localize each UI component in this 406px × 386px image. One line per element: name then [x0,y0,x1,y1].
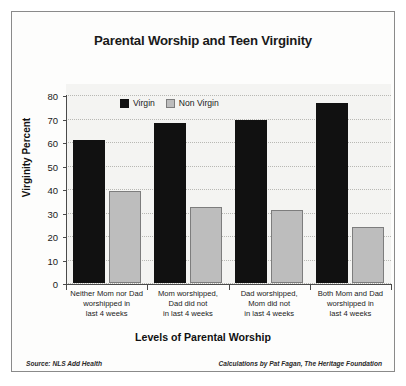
bar-non-virgin-group-1 [109,191,141,283]
plot-area [66,84,391,284]
x-axis-category-label: Neither Mom nor Dadworshipped inlast 4 w… [66,289,147,320]
y-axis-tick-label: 0 [53,279,58,290]
y-axis-tick [63,167,67,168]
bar-virgin-group-1 [73,140,105,283]
bar-non-virgin-group-4 [352,227,384,283]
x-axis-title: Levels of Parental Worship [12,331,394,343]
legend-label-non-virgin: Non Virgin [179,98,219,108]
y-axis-line [66,95,67,284]
y-axis-tick-labels: 01020304050607080 [12,95,66,284]
y-axis-tick-label: 70 [47,114,58,125]
bar-non-virgin-group-2 [190,207,222,283]
plot-inner [66,95,391,283]
x-axis-category-label: Dad worshipped,Mom did notin last 4 week… [229,289,310,320]
chart-title: Parental Worship and Teen Virginity [12,33,394,48]
y-axis-tick [63,214,67,215]
y-axis-tick-label: 30 [47,208,58,219]
y-axis-tick-label: 20 [47,232,58,243]
bar-virgin-group-2 [154,123,186,283]
y-axis-tick-label: 40 [47,185,58,196]
bar-virgin-group-3 [235,120,267,283]
y-axis-tick [63,261,67,262]
legend-label-virgin: Virgin [133,98,155,108]
bar-virgin-group-4 [316,103,348,283]
x-axis-category-label: Both Mom and Dadworshipped inlast 4 week… [310,289,391,320]
y-axis-tick-label: 50 [47,161,58,172]
footnote-credit: Calculations by Pat Fagan, The Heritage … [219,360,382,367]
footnote-source: Source: NLS Add Health [26,360,102,367]
x-axis-category-label: Mom worshipped,Dad did notin last 4 week… [147,289,228,320]
y-axis-tick [63,237,67,238]
x-axis-category-labels: Neither Mom nor Dadworshipped inlast 4 w… [66,289,392,329]
chart-legend: Virgin Non Virgin [120,98,219,108]
y-axis-tick [63,190,67,191]
x-axis-line [66,284,392,285]
y-axis-tick [63,96,67,97]
y-axis-tick-label: 60 [47,138,58,149]
gridline [66,95,391,96]
y-axis-tick [63,120,67,121]
legend-swatch-virgin-icon [120,99,129,108]
bar-non-virgin-group-3 [271,210,303,283]
y-axis-tick-label: 80 [47,91,58,102]
chart-figure: Parental Worship and Teen Virginity Virg… [11,11,395,372]
legend-swatch-non-virgin-icon [166,99,175,108]
y-axis-tick [63,143,67,144]
y-axis-tick-label: 10 [47,255,58,266]
legend-item-non-virgin: Non Virgin [166,98,219,108]
legend-item-virgin: Virgin [120,98,155,108]
